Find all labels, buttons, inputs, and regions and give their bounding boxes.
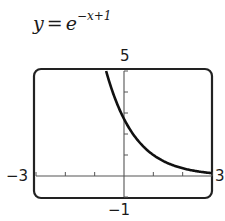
calculator-screen-frame <box>34 69 212 198</box>
exponential-curve <box>106 71 212 173</box>
axes <box>36 71 212 197</box>
graph-plot <box>0 0 225 221</box>
